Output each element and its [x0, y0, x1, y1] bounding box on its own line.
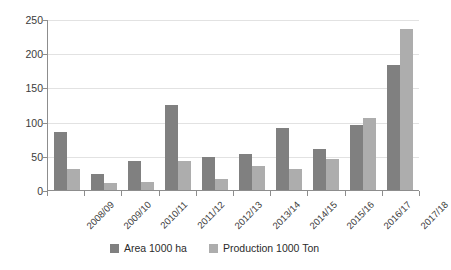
legend-item[interactable]: Area 1000 ha [110, 243, 187, 254]
x-axis-tick-mark [382, 191, 383, 196]
bar-group [159, 20, 196, 190]
bar [141, 182, 154, 190]
x-axis-tick-label: 2017/18 [418, 199, 450, 231]
bar [104, 183, 117, 190]
legend-item-label: Area 1000 ha [124, 243, 187, 254]
x-axis-tick-label: 2013/14 [270, 199, 302, 231]
bar [239, 154, 252, 190]
x-axis-tick-label: 2015/16 [344, 199, 376, 231]
legend-item[interactable]: Production 1000 Ton [209, 243, 319, 254]
y-axis-tick-label: 100 [9, 117, 43, 128]
bar-group [345, 20, 382, 190]
x-axis-tick-mark [233, 191, 234, 196]
x-axis-tick-mark [121, 191, 122, 196]
bar [387, 65, 400, 190]
x-axis-tick-label: 2014/15 [307, 199, 339, 231]
x-axis-tick-mark [159, 191, 160, 196]
bar [252, 166, 265, 190]
x-axis-tick-mark [47, 191, 48, 196]
legend-item-label: Production 1000 Ton [223, 243, 319, 254]
bar-group [271, 20, 308, 190]
y-axis-tick-label: 150 [9, 83, 43, 94]
x-axis-tick-mark [307, 191, 308, 196]
bar-group [308, 20, 345, 190]
legend-swatch-icon [110, 244, 119, 253]
plot-area [47, 20, 419, 191]
bar-group [382, 20, 419, 190]
x-axis-tick-label: 2012/13 [232, 199, 264, 231]
bar [91, 174, 104, 190]
bar [54, 132, 67, 190]
x-axis-tick-mark [345, 191, 346, 196]
x-axis-tick-label: 2016/17 [381, 199, 413, 231]
bar [128, 161, 141, 190]
chart-legend: Area 1000 haProduction 1000 Ton [0, 243, 429, 254]
y-axis-tick-label: 0 [9, 186, 43, 197]
y-axis-tick-label: 200 [9, 49, 43, 60]
bar [289, 169, 302, 190]
bar-group [48, 20, 85, 190]
bar-group [122, 20, 159, 190]
x-axis-tick-label: 2009/10 [121, 199, 153, 231]
x-axis-tick-label: 2008/09 [84, 199, 116, 231]
x-axis-tick-mark [419, 191, 420, 196]
bar-group [233, 20, 270, 190]
bar [350, 125, 363, 190]
legend-swatch-icon [209, 244, 218, 253]
bar [313, 149, 326, 190]
bar [326, 159, 339, 190]
bar [400, 29, 413, 190]
bar [165, 105, 178, 190]
bar [178, 161, 191, 190]
bar [363, 118, 376, 190]
bar [276, 128, 289, 190]
x-axis-tick-label: 2011/12 [195, 199, 227, 231]
y-axis-tick-label: 250 [9, 15, 43, 26]
x-axis-tick-mark [270, 191, 271, 196]
bar [215, 179, 228, 190]
y-axis-tick-label: 50 [9, 152, 43, 163]
x-axis-tick-label: 2010/11 [158, 199, 190, 231]
bars-layer [48, 20, 419, 190]
x-axis-tick-mark [84, 191, 85, 196]
bar-group [196, 20, 233, 190]
bar [67, 169, 80, 190]
bar-group [85, 20, 122, 190]
bar [202, 157, 215, 190]
x-axis-tick-mark [196, 191, 197, 196]
